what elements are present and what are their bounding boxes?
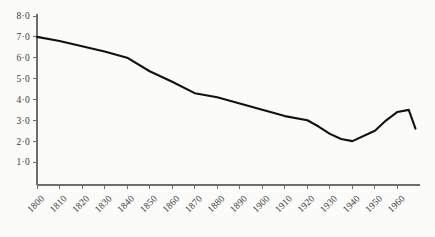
x-tick-label: 1950 bbox=[363, 193, 384, 214]
x-tick-label: 1910 bbox=[273, 193, 294, 214]
x-tick-label: 1800 bbox=[25, 193, 46, 214]
y-tick-label: 5·0 bbox=[16, 74, 30, 84]
chart-container: 1·02·03·04·05·06·07·08·0 180018101820183… bbox=[0, 0, 435, 237]
y-tick-label: 1·0 bbox=[16, 157, 30, 167]
x-axis: 1800181018201830184018501860187018801890… bbox=[25, 185, 420, 214]
x-tick-label: 1820 bbox=[70, 193, 91, 214]
x-tick-label: 1830 bbox=[93, 193, 114, 214]
x-tick-label: 1870 bbox=[183, 193, 204, 214]
y-tick-label: 7·0 bbox=[16, 32, 30, 42]
x-tick-label: 1840 bbox=[115, 193, 136, 214]
x-tick-label: 1900 bbox=[251, 193, 272, 214]
x-tick-label: 1930 bbox=[318, 193, 339, 214]
y-tick-label: 3·0 bbox=[16, 116, 30, 126]
x-tick-label: 1940 bbox=[341, 193, 362, 214]
x-tick-label: 1960 bbox=[386, 193, 407, 214]
y-tick-label: 4·0 bbox=[16, 95, 30, 105]
x-tick-label: 1880 bbox=[206, 193, 227, 214]
x-tick-label: 1850 bbox=[138, 193, 159, 214]
y-axis: 1·02·03·04·05·06·07·08·0 bbox=[16, 11, 37, 185]
y-tick-label: 8·0 bbox=[16, 11, 30, 21]
x-tick-label: 1890 bbox=[228, 193, 249, 214]
y-tick-group: 1·02·03·04·05·06·07·08·0 bbox=[16, 11, 37, 167]
series-group bbox=[37, 37, 415, 141]
series-1-line bbox=[37, 37, 415, 141]
x-tick-label: 1920 bbox=[296, 193, 317, 214]
y-tick-label: 2·0 bbox=[16, 137, 30, 147]
x-tick-label: 1810 bbox=[48, 193, 69, 214]
x-tick-group: 1800181018201830184018501860187018801890… bbox=[25, 185, 407, 214]
line-chart: 1·02·03·04·05·06·07·08·0 180018101820183… bbox=[0, 0, 435, 237]
y-tick-label: 6·0 bbox=[16, 53, 30, 63]
x-tick-label: 1860 bbox=[161, 193, 182, 214]
